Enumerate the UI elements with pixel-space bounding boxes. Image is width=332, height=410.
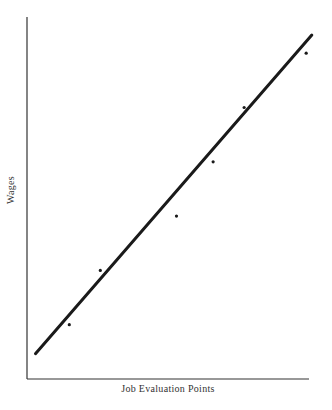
y-axis-label: Wages: [5, 176, 16, 204]
data-point: [68, 323, 71, 326]
data-point: [175, 215, 178, 218]
scatter-chart: Wages Job Evaluation Points: [0, 0, 332, 410]
regression-line: [35, 35, 311, 354]
x-axis-label: Job Evaluation Points: [121, 383, 215, 394]
data-points: [68, 52, 308, 327]
data-point: [212, 160, 215, 163]
data-point: [305, 52, 308, 55]
data-point: [243, 106, 246, 109]
data-point: [99, 269, 102, 272]
